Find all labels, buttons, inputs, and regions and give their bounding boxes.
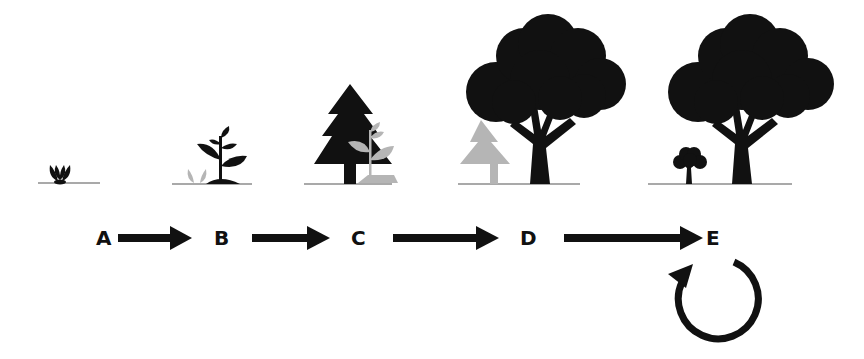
stage-a-sprout-icon	[38, 165, 100, 185]
stage-label-d: D	[520, 228, 537, 248]
cycle-arrow-icon	[668, 262, 758, 339]
arrow-a-to-b-icon	[118, 226, 192, 250]
stage-label-c: C	[351, 228, 366, 248]
arrow-d-to-e-icon	[564, 226, 703, 250]
stage-b-plant-icon	[172, 126, 252, 184]
stage-label-b: B	[214, 228, 229, 248]
stage-c-conifer-icon	[304, 84, 398, 184]
stage-d-broadleaf-tree-icon	[458, 14, 626, 184]
arrow-c-to-d-icon	[393, 226, 499, 250]
flow-arrows	[118, 226, 703, 250]
stage-label-e: E	[706, 228, 720, 248]
succession-diagram	[0, 0, 864, 359]
stage-e-broadleaf-tree-with-sapling-icon	[648, 14, 834, 184]
stage-label-a: A	[96, 228, 111, 248]
arrow-b-to-c-icon	[252, 226, 330, 250]
